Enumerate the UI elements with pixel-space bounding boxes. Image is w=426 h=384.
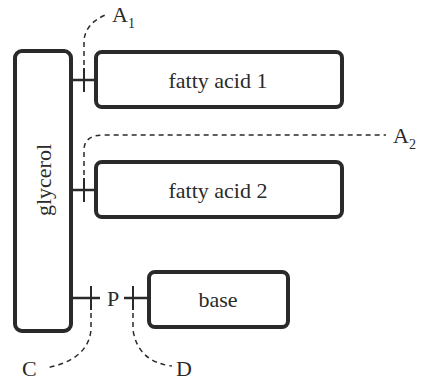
base-label: base bbox=[198, 287, 237, 312]
label-c: C bbox=[22, 356, 37, 381]
label-d: D bbox=[176, 356, 192, 381]
label-a2: A2 bbox=[393, 123, 416, 152]
label-a1: A1 bbox=[112, 2, 135, 31]
fatty-acid-2-label: fatty acid 2 bbox=[169, 178, 268, 203]
glycerol-label: glycerol bbox=[31, 144, 56, 216]
fatty-acid-1-label: fatty acid 1 bbox=[169, 68, 268, 93]
phosphate-label: P bbox=[107, 286, 119, 311]
phospholipid-diagram: glycerol fatty acid 1 fatty acid 2 P bas… bbox=[0, 0, 426, 384]
